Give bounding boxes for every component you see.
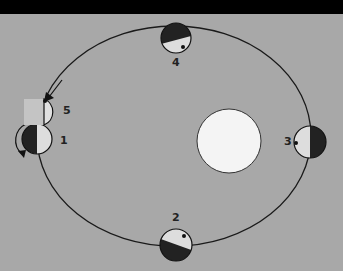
- planet-4: [150, 20, 202, 53]
- label-3: 3: [284, 135, 292, 148]
- label-1: 1: [60, 134, 68, 147]
- sun: [197, 109, 261, 173]
- label-4: 4: [172, 56, 180, 69]
- planet-3: [294, 126, 326, 158]
- label-5: 5: [63, 104, 71, 117]
- planet-5: [24, 80, 62, 125]
- planet-2: [150, 229, 202, 270]
- planet-1: [16, 124, 52, 158]
- label-2: 2: [172, 211, 180, 224]
